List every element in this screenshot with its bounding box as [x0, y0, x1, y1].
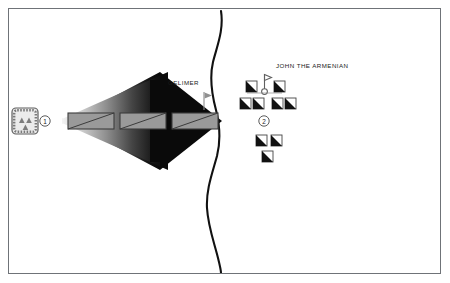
byzantine-unit-symbol: [240, 98, 251, 109]
map-graphics-layer: 1 2: [0, 0, 450, 283]
byzantine-unit-symbol: [272, 98, 283, 109]
label-john-the-armenian: JOHN THE ARMENIAN: [276, 62, 349, 69]
infantry-block: [120, 113, 166, 129]
byzantine-unit-symbol: [274, 81, 285, 92]
infantry-block: [68, 113, 114, 129]
marker-1-label: 1: [43, 118, 47, 125]
gelimer-flag-icon: [204, 92, 212, 110]
marker-2-label: 2: [262, 118, 266, 125]
byzantine-unit-symbol: [246, 81, 257, 92]
byzantine-unit-symbol: [253, 98, 264, 109]
byzantine-unit-symbol: [256, 135, 267, 146]
river-line: [207, 11, 222, 273]
label-gelimer: GELIMER: [168, 79, 199, 86]
fortified-camp-symbol: [12, 108, 38, 134]
marker-2: 2: [259, 116, 269, 126]
byzantine-unit-symbol: [271, 135, 282, 146]
byzantine-unit-symbol: [285, 98, 296, 109]
byzantine-unit-symbol: [262, 151, 273, 162]
marker-1: 1: [40, 116, 50, 126]
battle-map-diagram: 1 2: [0, 0, 450, 283]
infantry-block-group: [68, 113, 218, 129]
infantry-block: [172, 113, 218, 129]
